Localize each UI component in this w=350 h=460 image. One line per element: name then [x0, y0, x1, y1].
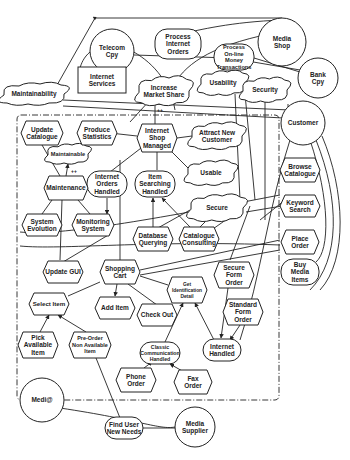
actor-customer[interactable]: Customer	[281, 101, 325, 145]
contribution-label: ++	[157, 107, 163, 113]
softgoal-attract[interactable]: Attract NewCustomer	[188, 122, 247, 150]
node-label: Medi@	[31, 396, 52, 403]
node-label: Shop	[274, 42, 290, 50]
goal-classic_comm[interactable]: ClassicCommunicationHandled	[140, 342, 180, 364]
node-label: Internet	[145, 127, 170, 134]
task-shopping_cart[interactable]: ShoppingCart	[100, 260, 140, 284]
task-pick_available[interactable]: PickAvailableItem	[18, 332, 58, 358]
node-label: Catalogue	[284, 170, 316, 178]
task-system_evolution[interactable]: SystemEvolution	[22, 214, 62, 236]
node-label: Identification	[172, 288, 202, 293]
node-label: Item	[148, 173, 162, 180]
node-label: Handled	[94, 188, 120, 195]
task-get_identification[interactable]: GetIdentificationDetail	[167, 277, 207, 303]
actor-medi[interactable]: Medi@	[20, 378, 64, 422]
node-label: Internet	[90, 73, 115, 80]
node-label: Browse	[288, 163, 312, 170]
node-label: Cpy	[312, 78, 325, 86]
goal-item_searching_handled[interactable]: ItemSearchingHandled	[135, 171, 175, 197]
node-label: Search	[289, 206, 311, 213]
actor-mediashop[interactable]: MediaShop	[258, 18, 306, 66]
node-label: Order	[291, 242, 309, 249]
node-label: Order	[225, 279, 243, 286]
softgoal-maintainable[interactable]: Maintainable	[44, 143, 91, 164]
task-phone_order[interactable]: PhoneOrder	[116, 368, 156, 392]
goal-process_internet[interactable]: ProcessInternetOrders	[155, 29, 201, 59]
node-label: Evolution	[27, 225, 57, 232]
goal-internet_orders_handled[interactable]: InternetOrdersHandled	[87, 171, 127, 197]
task-pre_order[interactable]: Pre-OrderNon AvailableItem	[69, 332, 111, 358]
node-label: Get	[183, 282, 191, 287]
node-label: Cpy	[106, 51, 119, 59]
task-standard_form_order[interactable]: StandardFormOrder	[223, 299, 263, 325]
node-label: Order	[127, 380, 145, 387]
task-secure_form_order[interactable]: SecureFormOrder	[214, 262, 254, 288]
node-label: Process	[165, 33, 191, 40]
diagram-nodes: TelecomCpyMediaShopBankCpyCustomerMedi@M…	[0, 18, 338, 447]
task-check_out[interactable]: Check Out	[137, 304, 177, 326]
actor-bankcpy[interactable]: BankCpy	[298, 58, 338, 98]
node-label: Statistics	[83, 133, 112, 140]
node-label: Maintenance	[46, 184, 86, 191]
goal-internet_handled[interactable]: InternetHandled	[203, 339, 241, 361]
task-select_item[interactable]: Select Item	[29, 293, 69, 315]
node-label: Maintainability	[11, 90, 57, 98]
softgoal-usability[interactable]: Usability	[197, 70, 249, 95]
node-label: Media	[186, 420, 205, 427]
softgoal-increase_market[interactable]: IncreaseMarket Share	[135, 76, 194, 106]
node-label: Update GUI	[45, 268, 81, 276]
node-label: Pick	[31, 334, 45, 341]
node-label: Place	[292, 235, 309, 242]
diagram-canvas: TelecomCpyMediaShopBankCpyCustomerMedi@M…	[0, 0, 350, 460]
task-update_gui[interactable]: Update GUI	[43, 261, 83, 283]
node-label: Add Item	[101, 304, 129, 311]
softgoal-security[interactable]: Security	[239, 77, 291, 102]
node-label: Managed	[143, 142, 171, 150]
softgoal-maintainability[interactable]: Maintainability	[0, 82, 69, 105]
task-update_catalogue[interactable]: UpdateCatalogue	[21, 121, 63, 145]
task-monitoring_system[interactable]: MonitoringSystem	[72, 214, 114, 236]
task-maintenance[interactable]: Maintenance	[44, 176, 88, 200]
resource-internet_services[interactable]: InternetServices	[78, 67, 126, 93]
task-database_querying[interactable]: DatabaseQuerying	[133, 227, 173, 251]
node-label: Form	[226, 271, 242, 278]
task-fax_order[interactable]: FaxOrder	[174, 370, 212, 394]
actor-telecom[interactable]: TelecomCpy	[90, 29, 134, 73]
goal-process_money[interactable]: ProcessOn-lineMoneyTransactions	[214, 44, 254, 70]
node-label: Catalogue	[26, 133, 58, 141]
node-label: Money	[225, 57, 244, 63]
node-label: Produce	[84, 126, 110, 133]
node-label: Usability	[209, 79, 236, 87]
node-label: Internet	[166, 40, 191, 47]
node-label: Process	[223, 44, 245, 50]
node-label: Item	[84, 348, 95, 354]
task-produce_statistics[interactable]: ProduceStatistics	[77, 121, 117, 145]
task-internet_shop_managed[interactable]: InternetShopManaged	[137, 124, 177, 152]
node-label: Available	[24, 341, 53, 348]
node-label: Telecom	[99, 44, 125, 51]
node-label: Security	[252, 86, 278, 94]
actor-supplier[interactable]: MediaSupplier	[175, 407, 215, 447]
node-label: Increase	[151, 84, 178, 91]
task-catalogue_consulting[interactable]: CatalogueConsulting	[179, 227, 219, 251]
task-add_item[interactable]: Add Item	[95, 297, 135, 319]
node-label: Cart	[113, 272, 127, 279]
task-browse_catalogue[interactable]: BrowseCatalogue	[280, 158, 320, 182]
task-keyword_search[interactable]: KeywordSearch	[280, 195, 320, 217]
node-label: Order	[184, 382, 202, 389]
softgoal-secure[interactable]: Secure	[186, 194, 247, 222]
node-label: Attract New	[199, 129, 236, 136]
task-place_order[interactable]: PlaceOrder	[281, 230, 319, 254]
node-label: Supplier	[182, 427, 208, 435]
node-label: Market Share	[144, 91, 185, 98]
goal-find_user[interactable]: Find UserNew Needs	[105, 417, 143, 439]
node-label: New Needs	[107, 428, 142, 435]
node-label: Querying	[139, 239, 168, 247]
node-label: Items	[292, 276, 309, 283]
node-label: Form	[235, 308, 251, 315]
node-label: Customer	[202, 136, 233, 143]
node-label: Orders	[167, 48, 189, 55]
softgoal-usable[interactable]: Usable	[184, 160, 238, 185]
goal-buy_media[interactable]: BuyMediaItems	[281, 259, 319, 285]
node-label: Services	[89, 80, 116, 87]
